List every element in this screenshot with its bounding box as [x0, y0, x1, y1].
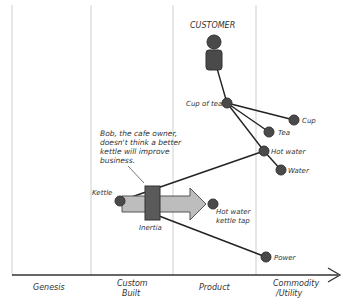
value-chain-map: CUSTOMER Cup of tea Cup Tea Hot water Wa…: [0, 0, 350, 304]
evolution-arrow: [122, 188, 206, 220]
label-cup-of-tea: Cup of tea: [186, 100, 222, 108]
stage-labels: Genesis Custom Built Product Commodity /…: [33, 279, 319, 298]
svg-text:doesn't think a better: doesn't think a better: [100, 138, 182, 147]
svg-text:Genesis: Genesis: [33, 283, 65, 292]
label-inertia: Inertia: [139, 224, 162, 232]
label-kettle: Kettle: [92, 189, 112, 197]
inertia-block: [145, 186, 160, 220]
customer-label: CUSTOMER: [190, 21, 235, 30]
node-hot-water: [259, 146, 269, 156]
svg-text:/Utility: /Utility: [275, 289, 302, 298]
label-power: Power: [274, 254, 297, 262]
label-cup: Cup: [302, 117, 316, 125]
svg-text:Product: Product: [199, 283, 231, 292]
svg-text:Commodity: Commodity: [273, 279, 319, 288]
label-tea: Tea: [278, 129, 290, 137]
label-hot-water-tap-1: Hot water: [216, 208, 252, 216]
nodes: [115, 98, 299, 262]
node-cup-of-tea: [222, 98, 232, 108]
svg-text:kettle will improve: kettle will improve: [100, 147, 170, 156]
node-kettle: [115, 196, 125, 206]
svg-text:Custom: Custom: [117, 279, 148, 288]
svg-text:Built: Built: [122, 289, 141, 298]
label-hot-water: Hot water: [271, 148, 307, 156]
customer-icon: [206, 35, 222, 70]
annotation-pointer: [128, 166, 144, 183]
node-tea: [264, 127, 274, 137]
node-power: [261, 252, 271, 262]
svg-text:business.: business.: [100, 156, 135, 165]
node-water: [276, 165, 286, 175]
label-hot-water-tap-2: kettle tap: [216, 217, 250, 225]
svg-text:Bob, the cafe owner,: Bob, the cafe owner,: [100, 129, 177, 138]
label-water: Water: [288, 167, 310, 175]
annotation-text: Bob, the cafe owner, doesn't think a bet…: [100, 129, 182, 165]
node-cup: [289, 115, 299, 125]
